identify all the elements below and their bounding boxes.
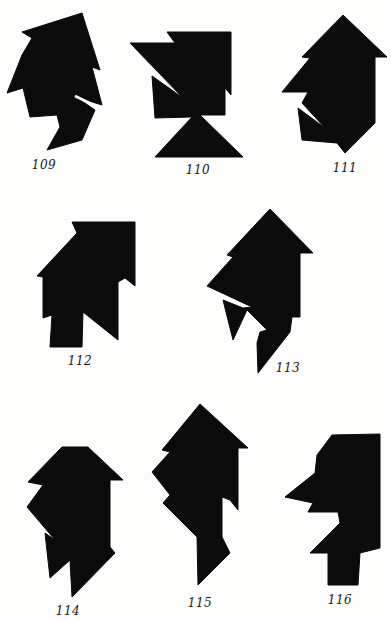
tangram-figure-111	[282, 15, 387, 153]
tangram-figures-canvas	[0, 0, 391, 620]
tangram-figure-116	[285, 434, 380, 585]
figure-number-label: 113	[276, 361, 300, 375]
tangram-page: 109110111112113114115116	[0, 0, 391, 620]
figure-number-label: 109	[32, 158, 56, 172]
tangram-figure-110	[130, 32, 243, 157]
figure-number-label: 110	[186, 163, 210, 177]
tangram-silhouette	[152, 404, 248, 585]
tangram-silhouette	[37, 222, 135, 347]
tangram-silhouette	[7, 13, 102, 150]
tangram-silhouette	[282, 15, 387, 153]
tangram-figure-112	[37, 222, 135, 347]
tangram-silhouette	[27, 447, 123, 597]
tangram-figure-113	[207, 209, 313, 373]
tangram-figure-115	[152, 404, 248, 585]
figure-number-label: 114	[56, 604, 80, 618]
figure-number-label: 112	[68, 354, 92, 368]
tangram-silhouette	[285, 434, 380, 585]
tangram-silhouette	[207, 209, 313, 373]
tangram-silhouette	[130, 32, 243, 157]
figure-number-label: 111	[333, 161, 357, 175]
figure-number-label: 116	[328, 593, 352, 607]
figure-number-label: 115	[188, 596, 212, 610]
tangram-figure-109	[7, 13, 102, 150]
tangram-figure-114	[27, 447, 123, 597]
